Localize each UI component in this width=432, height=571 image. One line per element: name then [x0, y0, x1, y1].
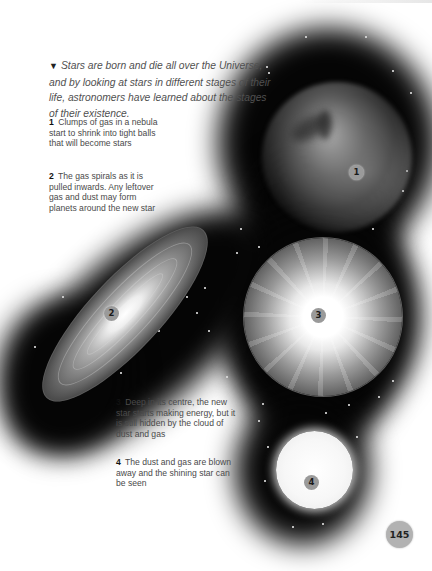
caption-text: The dust and gas are blown away and the … [116, 457, 231, 488]
intro-text: Stars are born and die all over the Univ… [49, 60, 271, 119]
caption-number: 1 [49, 117, 54, 127]
badge-3: 3 [311, 308, 326, 323]
caption-number: 4 [116, 457, 121, 467]
page-top-edge [300, 0, 432, 3]
shining-star-illustration [276, 431, 353, 509]
caption-text: The gas spirals as it is pulled inwards.… [49, 171, 155, 213]
caption-number: 2 [49, 171, 54, 181]
page-number: 145 [386, 521, 413, 548]
book-page: 1 2 3 4 ▼Stars are born and die all over… [0, 0, 432, 571]
nebula-pillar [318, 110, 332, 140]
intro-paragraph: ▼Stars are born and die all over the Uni… [49, 58, 274, 121]
caption-text: Deep in its centre, the new star starts … [116, 397, 235, 439]
badge-4: 4 [304, 475, 319, 490]
badge-1: 1 [349, 165, 364, 180]
caption-2: 2 The gas spirals as it is pulled inward… [49, 171, 164, 213]
down-triangle-icon: ▼ [49, 61, 58, 71]
caption-1: 1 Clumps of gas in a nebula start to shr… [49, 117, 159, 149]
caption-number: 3 [116, 397, 121, 407]
caption-4: 4 The dust and gas are blown away and th… [116, 457, 236, 489]
badge-2: 2 [104, 306, 119, 321]
nebula-illustration [262, 82, 412, 232]
caption-text: Clumps of gas in a nebula start to shrin… [49, 117, 158, 148]
caption-3: 3 Deep in its centre, the new star start… [116, 397, 238, 439]
